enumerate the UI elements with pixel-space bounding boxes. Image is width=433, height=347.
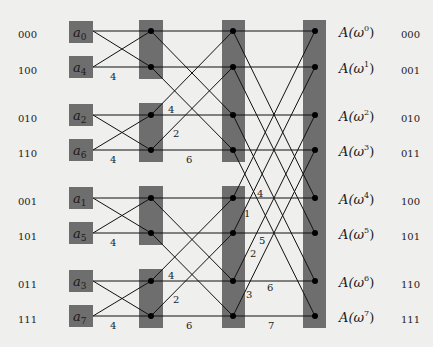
twiddle-s2-top-6: 6 xyxy=(186,154,192,165)
input-bits-1: 100 xyxy=(18,65,37,76)
input-bits-0: 000 xyxy=(18,29,37,40)
input-bits-3: 110 xyxy=(18,148,37,159)
stage3-twiddles: 4 1 5 2 6 3 7 xyxy=(244,188,274,331)
output-A-w1: A(ω1) xyxy=(338,60,374,76)
twiddle-s3-7: 7 xyxy=(268,320,274,331)
twiddle-s2-bot-2: 2 xyxy=(173,294,179,305)
twiddle-s1-1: 4 xyxy=(110,154,116,165)
twiddle-s2-bot-4: 4 xyxy=(168,270,174,281)
fft-butterfly-diagram: 000 100 010 110 001 101 011 111 a0 a4 a2… xyxy=(0,0,433,347)
butterfly-lines xyxy=(93,31,315,316)
output-A-w4: A(ω4) xyxy=(338,191,374,207)
output-A-w5: A(ω5) xyxy=(338,226,374,242)
input-bits-2: 010 xyxy=(18,113,37,124)
twiddle-s3-5: 5 xyxy=(259,235,265,246)
output-bit-labels: 000 001 010 011 100 101 110 111 xyxy=(401,29,420,325)
output-A-w7: A(ω7) xyxy=(338,309,374,325)
stage2-twiddles: 4 2 6 4 2 6 xyxy=(168,104,192,331)
input-bits-6: 011 xyxy=(18,279,37,290)
output-bits-2: 010 xyxy=(401,113,420,124)
output-bits-1: 001 xyxy=(401,65,420,76)
output-A-w6: A(ω6) xyxy=(338,274,374,290)
twiddle-s2-top-4: 4 xyxy=(168,104,174,115)
twiddle-s3-4: 4 xyxy=(257,188,263,199)
twiddle-s3-2: 2 xyxy=(250,248,256,259)
output-labels: A(ω0) A(ω1) A(ω2) A(ω3) A(ω4) A(ω5) A(ω6… xyxy=(338,24,374,325)
output-bits-3: 011 xyxy=(401,148,420,159)
twiddle-s1-0: 4 xyxy=(110,71,116,82)
twiddle-s3-1: 1 xyxy=(244,208,250,219)
input-bits-7: 111 xyxy=(18,314,37,325)
input-coefficients: a0 a4 a2 a6 a1 a5 a3 a7 xyxy=(73,25,87,326)
input-bit-labels: 000 100 010 110 001 101 011 111 xyxy=(18,29,37,325)
output-A-w0: A(ω0) xyxy=(338,24,374,40)
output-bits-4: 100 xyxy=(401,196,420,207)
output-bits-5: 101 xyxy=(401,231,420,242)
twiddle-s1-2: 4 xyxy=(110,237,116,248)
input-bits-5: 101 xyxy=(18,231,37,242)
output-A-w3: A(ω3) xyxy=(338,143,374,159)
output-bits-6: 110 xyxy=(401,279,420,290)
twiddle-s1-3: 4 xyxy=(110,320,116,331)
twiddle-s3-6: 6 xyxy=(267,282,273,293)
twiddle-s3-3: 3 xyxy=(246,289,252,300)
input-bits-4: 001 xyxy=(18,196,37,207)
output-bits-7: 111 xyxy=(401,314,420,325)
output-A-w2: A(ω2) xyxy=(338,108,374,124)
twiddle-s2-bot-6: 6 xyxy=(186,320,192,331)
twiddle-s2-top-2: 2 xyxy=(173,128,179,139)
output-bits-0: 000 xyxy=(401,29,420,40)
